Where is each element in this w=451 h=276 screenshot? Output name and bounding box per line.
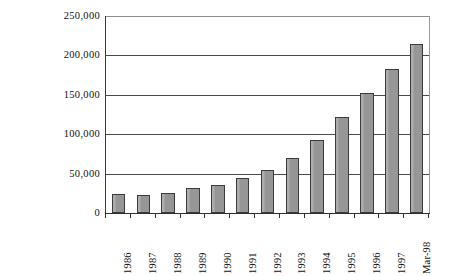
employment-bar-chart: Employment 050,000100,000150,000200,0002… bbox=[0, 0, 451, 276]
bar bbox=[335, 117, 349, 213]
bar bbox=[236, 178, 250, 214]
x-axis-tick bbox=[229, 213, 230, 218]
x-axis-tick bbox=[304, 213, 305, 218]
x-axis-tick bbox=[180, 213, 181, 218]
x-axis-tick-label: 1991 bbox=[247, 252, 258, 274]
x-axis-tick bbox=[204, 213, 205, 218]
bar bbox=[211, 185, 225, 213]
y-axis-tick-labels: 050,000100,000150,000200,000250,000 bbox=[14, 0, 100, 276]
bars-layer bbox=[106, 16, 429, 213]
x-axis-tick-label: 1997 bbox=[396, 252, 407, 274]
x-axis-tick-label: 1989 bbox=[197, 252, 208, 274]
x-axis-tick bbox=[403, 213, 404, 218]
plot-area bbox=[105, 16, 430, 213]
y-axis-tick-label: 150,000 bbox=[14, 89, 100, 100]
bar bbox=[360, 93, 374, 213]
x-axis-tick bbox=[378, 213, 379, 218]
x-axis-tick-label: 1986 bbox=[122, 252, 133, 274]
x-axis-tick-label: 1996 bbox=[371, 252, 382, 274]
x-axis-tick-label: 1990 bbox=[222, 252, 233, 274]
x-axis-tick bbox=[428, 213, 429, 218]
x-axis-tick bbox=[329, 213, 330, 218]
x-axis-tick-label: 1993 bbox=[296, 252, 307, 274]
bar bbox=[286, 158, 300, 213]
x-axis-tick-label: Mar-98 bbox=[421, 242, 432, 274]
x-axis-tick bbox=[279, 213, 280, 218]
bar bbox=[186, 188, 200, 213]
bar bbox=[261, 170, 275, 213]
x-axis-tick-label: 1987 bbox=[147, 252, 158, 274]
x-axis-tick-label: 1992 bbox=[272, 252, 283, 274]
y-axis-tick-label: 200,000 bbox=[14, 49, 100, 60]
y-axis-tick-label: 250,000 bbox=[14, 10, 100, 21]
x-axis-tick bbox=[254, 213, 255, 218]
x-axis-tick bbox=[354, 213, 355, 218]
x-axis-tick-labels: 1986198719881989199019911992199319941995… bbox=[105, 219, 429, 276]
x-axis-tick-label: 1995 bbox=[346, 252, 357, 274]
x-axis-tick-label: 1994 bbox=[321, 252, 332, 274]
bar bbox=[112, 194, 126, 213]
y-axis-tick-label: 0 bbox=[14, 207, 100, 218]
bar bbox=[410, 44, 424, 213]
y-axis-tick-label: 100,000 bbox=[14, 128, 100, 139]
x-axis-tick bbox=[105, 213, 106, 218]
x-axis-tick bbox=[155, 213, 156, 218]
bar bbox=[137, 195, 151, 213]
bar bbox=[161, 193, 175, 214]
y-axis-tick-label: 50,000 bbox=[14, 168, 100, 179]
bar bbox=[310, 140, 324, 213]
bar bbox=[385, 69, 399, 213]
x-axis-tick bbox=[130, 213, 131, 218]
x-axis-tick-label: 1988 bbox=[172, 252, 183, 274]
